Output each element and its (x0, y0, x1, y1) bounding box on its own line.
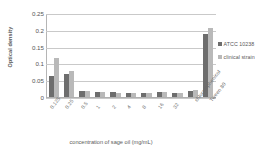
legend-swatch-icon (218, 55, 222, 59)
y-axis-tick-label: 0 (22, 95, 44, 101)
plot-area (46, 14, 216, 98)
bar-group (154, 14, 169, 97)
bar (177, 93, 182, 97)
y-axis-tick-label: 0.2 (22, 28, 44, 34)
x-axis-tick-label: 4 (125, 104, 132, 110)
legend-entry[interactable]: ATCC 10238 (218, 41, 267, 47)
bar (85, 91, 90, 97)
bar (162, 92, 167, 97)
x-axis-tick-label: 0.25 (64, 98, 75, 110)
y-axis-tick-label: 0.15 (22, 45, 44, 51)
x-axis-tick-label: 8 (141, 104, 148, 110)
bar (100, 92, 105, 97)
x-axis-tick-label: 2 (110, 104, 117, 110)
x-axis-tick-label: 0.5 (79, 100, 88, 110)
bar-group (77, 14, 92, 97)
y-axis-tick-label: 0.05 (22, 78, 44, 84)
x-axis-tick-label: 1 (95, 104, 102, 110)
x-axis-tick-label: 16 (156, 101, 164, 109)
x-axis-tick-labels: 0.1250.250.512481632chloramphenicolTween… (46, 99, 216, 155)
chart-legend: ATCC 10238clinical strain (218, 41, 267, 67)
legend-entry[interactable]: clinical strain (218, 54, 267, 60)
bar (116, 93, 121, 97)
legend-label: clinical strain (224, 54, 255, 60)
bar (131, 93, 136, 97)
bar-group (61, 14, 76, 97)
y-axis-tick-label: 0.1 (22, 61, 44, 67)
y-axis-title: Optical density (7, 16, 13, 78)
bar (54, 58, 59, 97)
x-axis-line (46, 97, 216, 98)
x-axis-title: concentration of sage oil (mg/mL) (36, 139, 186, 145)
bar-chart: Optical density 00.050.10.150.20.25 0.12… (0, 0, 267, 164)
y-axis-tick-labels: 00.050.10.150.20.25 (22, 10, 44, 98)
bar-group (92, 14, 107, 97)
bar-group (123, 14, 138, 97)
bar-group (46, 14, 61, 97)
bar-group (185, 14, 200, 97)
y-axis-tick-label: 0.25 (22, 11, 44, 17)
bar-group (170, 14, 185, 97)
bar (146, 93, 151, 97)
bar (69, 71, 74, 97)
legend-swatch-icon (218, 42, 222, 46)
legend-label: ATCC 10238 (224, 41, 255, 47)
x-axis-tick-label: 32 (172, 101, 180, 109)
bar-group (139, 14, 154, 97)
bars-layer (46, 14, 216, 97)
bar-group (108, 14, 123, 97)
